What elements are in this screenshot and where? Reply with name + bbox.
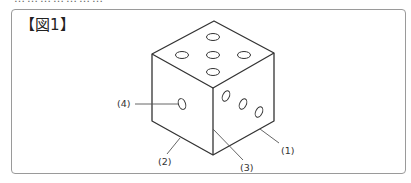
- left-face-pips: [177, 98, 187, 111]
- right-face-pips: [221, 90, 265, 119]
- leader-1: [260, 129, 279, 143]
- leader-3: [213, 129, 243, 160]
- callout-3: (3): [240, 162, 253, 173]
- top-face-pips: [176, 34, 251, 76]
- callout-2: (2): [158, 156, 171, 167]
- dice-diagram: (4) (2) (3) (1): [0, 0, 411, 183]
- callout-4: (4): [117, 98, 130, 109]
- cube-outline: [152, 21, 274, 155]
- callout-1: (1): [281, 145, 294, 156]
- leader-2: [167, 138, 180, 154]
